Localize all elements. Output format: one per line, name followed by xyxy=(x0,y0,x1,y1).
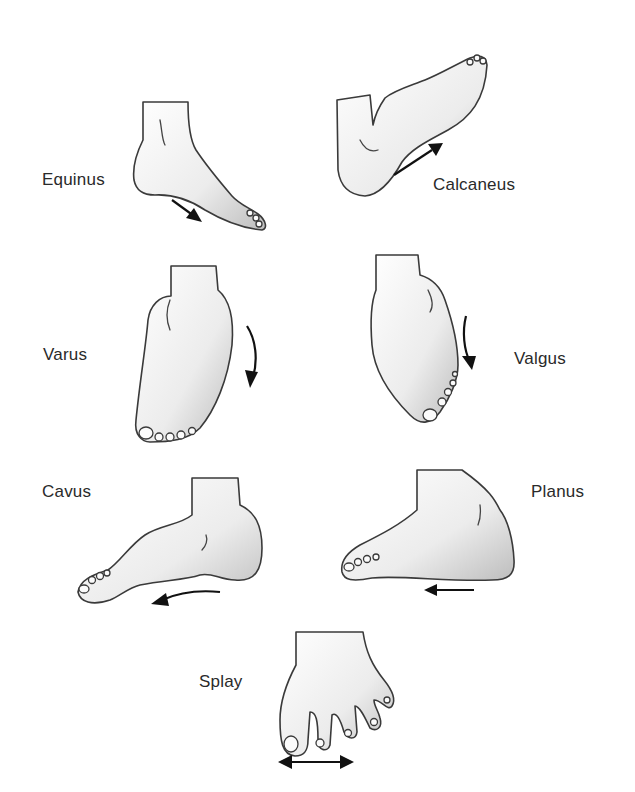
label-calcaneus: Calcaneus xyxy=(433,175,515,195)
label-valgus: Valgus xyxy=(514,349,566,369)
valgus-arrow-icon xyxy=(462,316,476,370)
label-varus: Varus xyxy=(43,345,87,365)
label-splay: Splay xyxy=(199,672,243,692)
splay-double-arrow-icon xyxy=(278,755,354,769)
planus-foot-illustration xyxy=(342,470,514,580)
varus-arrow-icon xyxy=(245,326,258,388)
valgus-foot-illustration xyxy=(371,255,458,422)
splay-foot-illustration xyxy=(280,632,394,756)
cavus-foot-illustration xyxy=(78,478,262,603)
varus-foot-illustration xyxy=(136,266,233,442)
illustration-canvas xyxy=(0,0,635,792)
label-equinus: Equinus xyxy=(42,170,105,190)
label-cavus: Cavus xyxy=(42,482,91,502)
label-planus: Planus xyxy=(531,482,584,502)
equinus-foot-illustration xyxy=(134,102,266,230)
planus-arrow-icon xyxy=(424,584,474,596)
cavus-arrow-icon xyxy=(151,591,220,606)
